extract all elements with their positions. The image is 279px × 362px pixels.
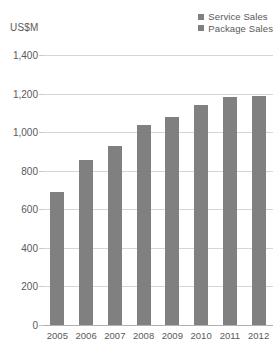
y-axis-tick-label: 1,400 — [13, 50, 38, 61]
y-axis-tick-label: 600 — [21, 204, 38, 215]
bar-stack[interactable] — [194, 105, 208, 325]
x-axis-tick-label: 2011 — [216, 330, 245, 341]
bar-segment[interactable] — [223, 97, 237, 325]
x-axis-tick-label: 2012 — [244, 330, 273, 341]
legend-label-service-sales: Service Sales — [208, 12, 267, 22]
x-axis-tick-label: 2008 — [129, 330, 158, 341]
y-axis-tick-mark — [39, 325, 43, 326]
y-axis-tick-label: 400 — [21, 242, 38, 253]
y-axis-tick-label: 800 — [21, 165, 38, 176]
bar-stack[interactable] — [108, 146, 122, 325]
plot-area: 02004006008001,0001,2001,400 — [43, 55, 273, 325]
x-axis-tick-label: 2010 — [187, 330, 216, 341]
bar-segment[interactable] — [79, 160, 93, 325]
bar-slot — [244, 55, 273, 325]
x-axis-tick-label: 2009 — [158, 330, 187, 341]
bar-segment[interactable] — [108, 146, 122, 325]
gridline — [43, 325, 273, 326]
bar-slot — [101, 55, 130, 325]
x-axis-tick-label: 2005 — [43, 330, 72, 341]
bar-segment[interactable] — [137, 125, 151, 325]
bar-segment[interactable] — [50, 192, 64, 325]
bar-slot — [187, 55, 216, 325]
legend-swatch-service-sales — [198, 14, 204, 20]
x-axis-labels: 20052006200720082009201020112012 — [43, 330, 273, 341]
bar-stack[interactable] — [165, 117, 179, 325]
bar-slot — [216, 55, 245, 325]
x-axis-tick-label: 2006 — [72, 330, 101, 341]
y-axis-tick-label: 1,200 — [13, 88, 38, 99]
legend-swatch-package-sales — [198, 25, 204, 31]
y-axis-tick-label: 0 — [32, 320, 38, 331]
bar-segment[interactable] — [252, 96, 266, 326]
bar-chart: US$M Service Sales Package Sales 0200400… — [0, 0, 279, 362]
bar-slot — [158, 55, 187, 325]
bar-group — [43, 55, 273, 325]
bar-segment[interactable] — [165, 117, 179, 325]
y-axis-tick-label: 1,000 — [13, 127, 38, 138]
bar-stack[interactable] — [137, 125, 151, 325]
chart-legend: Service Sales Package Sales — [198, 12, 273, 33]
y-axis-tick-label: 200 — [21, 281, 38, 292]
bar-slot — [72, 55, 101, 325]
bar-stack[interactable] — [223, 97, 237, 325]
bar-stack[interactable] — [79, 160, 93, 325]
legend-item-service-sales[interactable]: Service Sales — [198, 12, 273, 22]
legend-item-package-sales[interactable]: Package Sales — [198, 24, 273, 34]
bar-segment[interactable] — [194, 105, 208, 325]
bar-stack[interactable] — [50, 192, 64, 325]
bar-slot — [43, 55, 72, 325]
bar-stack[interactable] — [252, 96, 266, 326]
x-axis-tick-label: 2007 — [101, 330, 130, 341]
y-axis-title: US$M — [10, 22, 39, 33]
legend-label-package-sales: Package Sales — [208, 24, 273, 34]
bar-slot — [129, 55, 158, 325]
